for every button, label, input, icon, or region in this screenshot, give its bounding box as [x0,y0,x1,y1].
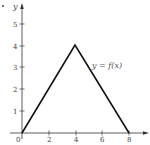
bullet-mark [2,5,4,7]
origin-label: 0 [16,136,20,144]
x-axis-arrow-icon [143,131,149,135]
x-tick-label: 4 [74,136,79,144]
y-axis-label: y [12,2,18,11]
function-line [22,45,129,133]
y-axis-arrow-icon [20,3,24,9]
y-tick-label: 5 [13,21,17,29]
chart: y 1 2 3 4 5 0 2 4 6 8 y = f(x) [0,0,150,145]
x-tick-label: 8 [127,136,131,144]
x-tick-label: 6 [100,136,105,144]
y-tick-label: 1 [13,108,17,116]
y-axis: y 1 2 3 4 5 [12,2,25,139]
y-tick-label: 3 [13,64,17,72]
y-tick-label: 2 [13,86,17,94]
y-tick-label: 4 [13,43,18,51]
curve-label: y = f(x) [91,61,122,70]
x-tick-label: 2 [47,136,51,144]
